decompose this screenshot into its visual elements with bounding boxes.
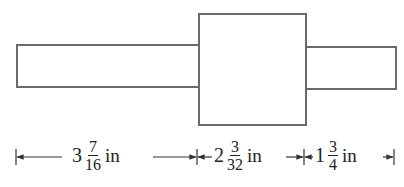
numerator: 3 bbox=[230, 138, 240, 156]
whole-number: 3 bbox=[72, 144, 82, 167]
denominator: 4 bbox=[329, 156, 337, 173]
unit: in bbox=[105, 145, 120, 167]
dimension-label-right: 1 3 4 in bbox=[313, 138, 359, 173]
fraction: 3 4 bbox=[328, 138, 338, 173]
numerator: 7 bbox=[88, 138, 98, 156]
fraction: 7 16 bbox=[85, 138, 101, 173]
denominator: 16 bbox=[85, 156, 101, 173]
whole-number: 2 bbox=[214, 144, 224, 167]
fraction: 3 32 bbox=[227, 138, 243, 173]
dimension-label-left: 3 7 16 in bbox=[70, 138, 122, 173]
denominator: 32 bbox=[227, 156, 243, 173]
dimension-label-middle: 2 3 32 in bbox=[212, 138, 264, 173]
whole-number: 1 bbox=[315, 144, 325, 167]
numerator: 3 bbox=[328, 138, 338, 156]
unit: in bbox=[342, 145, 357, 167]
unit: in bbox=[247, 145, 262, 167]
